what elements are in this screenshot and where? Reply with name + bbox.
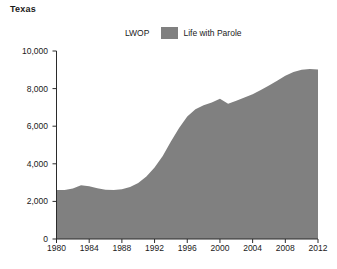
chart-svg (0, 0, 337, 269)
chart-container: Texas LWOP Life with Parole 02,0004,0006… (0, 0, 337, 269)
y-tick-label: 10,000 (2, 46, 48, 56)
plot-area (0, 0, 337, 269)
x-tick-label: 1992 (138, 243, 172, 253)
y-tick-label: 6,000 (2, 121, 48, 131)
y-tick-label: 2,000 (2, 196, 48, 206)
x-tick-label: 2000 (203, 243, 237, 253)
x-tick-label: 1996 (170, 243, 204, 253)
x-tick-label: 1980 (40, 243, 74, 253)
y-tick-label: 4,000 (2, 159, 48, 169)
x-tick-label: 2012 (301, 243, 335, 253)
x-tick-label: 2008 (268, 243, 302, 253)
x-tick-label: 1988 (105, 243, 139, 253)
x-tick-label: 1984 (72, 243, 106, 253)
y-tick-label: 8,000 (2, 84, 48, 94)
area-series-1 (57, 69, 319, 239)
x-tick-label: 2004 (236, 243, 270, 253)
